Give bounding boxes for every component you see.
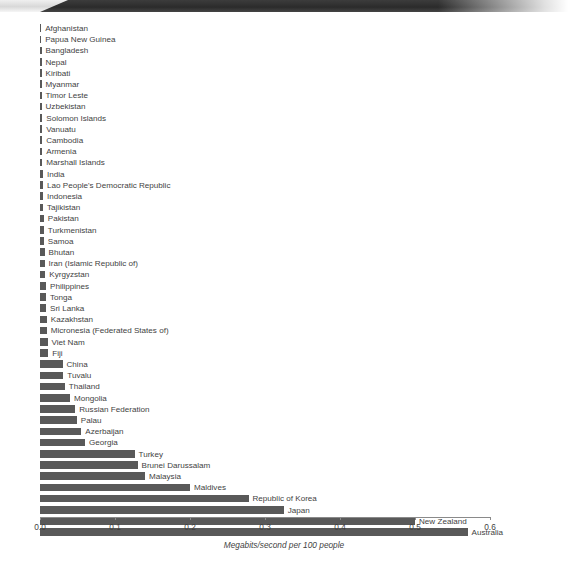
bar-row: Marshall Islands	[40, 157, 490, 168]
bar	[40, 394, 70, 402]
bar-row: Palau	[40, 415, 490, 426]
x-tick-mark	[190, 517, 191, 520]
x-tick-mark	[40, 517, 41, 520]
bar-row: India	[40, 169, 490, 180]
bar-label: Lao People's Democratic Republic	[43, 180, 170, 191]
bar-row: Armenia	[40, 146, 490, 157]
bar-row: Papua New Guinea	[40, 34, 490, 45]
bar-row: Philippines	[40, 281, 490, 292]
bar-label: Tajikistan	[43, 202, 80, 213]
bar	[40, 338, 48, 346]
bar-row: Micronesia (Federated States of)	[40, 325, 490, 336]
bar-label: Uzbekistan	[42, 101, 86, 112]
bar-label: Pakistan	[44, 213, 79, 224]
bar-label: Armenia	[42, 146, 76, 157]
bar	[40, 450, 135, 458]
bar-row: Russian Federation	[40, 404, 490, 415]
bar-row: Afghanistan	[40, 23, 490, 34]
bar	[40, 349, 48, 357]
bar-row: Uzbekistan	[40, 101, 490, 112]
x-tick-label: 0.2	[184, 522, 196, 532]
bar-label: Republic of Korea	[249, 493, 317, 504]
bar-label: Timor Leste	[42, 90, 88, 101]
bar-row: Japan	[40, 505, 490, 516]
x-tick-label: 0.6	[484, 522, 496, 532]
bar-row: Kyrgyzstan	[40, 269, 490, 280]
bar-label: Afghanistan	[41, 23, 88, 34]
bar-row: Pakistan	[40, 213, 490, 224]
bar-row: Lao People's Democratic Republic	[40, 180, 490, 191]
bar-label: Papua New Guinea	[41, 34, 115, 45]
x-tick-mark	[490, 517, 491, 520]
bar-row: Tuvalu	[40, 370, 490, 381]
bar-row: Georgia	[40, 437, 490, 448]
bar-label: Maldives	[190, 482, 226, 493]
bar-row: Azerbaijan	[40, 426, 490, 437]
bar-row: Kazakhstan	[40, 314, 490, 325]
bar-row: Thailand	[40, 381, 490, 392]
bar-label: Bangladesh	[42, 45, 89, 56]
bar-label: China	[63, 359, 88, 370]
bar-label: Thailand	[65, 381, 100, 392]
bar-label: Micronesia (Federated States of)	[47, 325, 169, 336]
bar-label: Kiribati	[42, 68, 71, 79]
x-tick-label: 0.0	[34, 522, 46, 532]
bar-label: Viet Nam	[48, 337, 85, 348]
x-tick-label: 0.3	[259, 522, 271, 532]
bar-row: Sri Lanka	[40, 303, 490, 314]
bar-row: Mongolia	[40, 393, 490, 404]
bar-row: Cambodia	[40, 135, 490, 146]
bar-label: Marshall Islands	[42, 157, 104, 168]
bar-label: Sri Lanka	[46, 303, 84, 314]
bar-row: Brunei Darussalam	[40, 460, 490, 471]
bar-row: Turkey	[40, 449, 490, 460]
bar-label: Myanmar	[42, 79, 80, 90]
bar-row: Republic of Korea	[40, 493, 490, 504]
bar-row: Bhutan	[40, 247, 490, 258]
bar-label: India	[43, 169, 65, 180]
bar-label: Nepal	[42, 57, 67, 68]
bar-label: Palau	[77, 415, 102, 426]
bar	[40, 472, 145, 480]
bar-label: Tonga	[46, 292, 72, 303]
bar-label: Kyrgyzstan	[45, 269, 89, 280]
bar	[40, 372, 63, 380]
bar	[40, 405, 75, 413]
bar	[40, 428, 81, 436]
bar-row: Myanmar	[40, 79, 490, 90]
bar-label: Vanuatu	[42, 124, 76, 135]
bar	[40, 461, 138, 469]
bar-row: Bangladesh	[40, 45, 490, 56]
bar-row: Samoa	[40, 236, 490, 247]
bar-row: Viet Nam	[40, 337, 490, 348]
bar	[40, 416, 77, 424]
x-tick-mark	[415, 517, 416, 520]
bar	[40, 506, 284, 514]
bar-row: Indonesia	[40, 191, 490, 202]
bar-row: Solomon Islands	[40, 113, 490, 124]
bar-label: Samoa	[44, 236, 74, 247]
bar-label: Azerbaijan	[81, 426, 123, 437]
bar-label: Malaysia	[145, 471, 181, 482]
bar-label: Philippines	[46, 281, 89, 292]
bar-row: Malaysia	[40, 471, 490, 482]
bar-label: Iran (Islamic Republic of)	[45, 258, 139, 269]
bar-row: Tajikistan	[40, 202, 490, 213]
bar	[40, 327, 47, 335]
bar-row: Fiji	[40, 348, 490, 359]
bar-row: Vanuatu	[40, 124, 490, 135]
bar-row: Timor Leste	[40, 90, 490, 101]
bar	[40, 360, 63, 368]
x-tick-mark	[340, 517, 341, 520]
bar-label: Turkey	[135, 449, 163, 460]
bar-row: Tonga	[40, 292, 490, 303]
x-tick-label: 0.1	[109, 522, 121, 532]
x-tick-label: 0.4	[334, 522, 346, 532]
bar-label: Cambodia	[42, 135, 83, 146]
bar-label: Fiji	[48, 348, 62, 359]
bar	[40, 439, 85, 447]
bar	[40, 484, 190, 492]
plot-area: AfghanistanPapua New GuineaBangladeshNep…	[40, 23, 490, 516]
bar	[40, 316, 47, 324]
x-tick-label: 0.5	[409, 522, 421, 532]
